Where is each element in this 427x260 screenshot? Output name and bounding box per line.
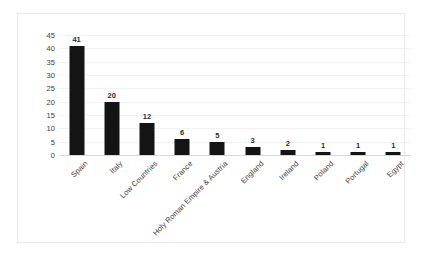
bar-value-label: 3 (251, 136, 255, 145)
bar-group: 12 (129, 35, 164, 155)
bar-group: 1 (305, 35, 340, 155)
bar[interactable] (245, 147, 260, 155)
x-axis-tick-label: Spain (69, 159, 89, 179)
y-axis-tick-label: 30 (46, 71, 55, 80)
bar-group: 41 (59, 35, 94, 155)
bar-value-label: 1 (356, 141, 360, 150)
bar-value-label: 2 (286, 139, 290, 148)
x-axis-tick-label: Ireland (277, 159, 300, 182)
x-axis-tick-label: Italy (108, 159, 124, 175)
y-axis-tick-label: 25 (46, 84, 55, 93)
bar-value-label: 1 (391, 141, 395, 150)
x-axis-tick-labels: SpainItalyLow CountriesFranceHoly Roman … (59, 159, 411, 255)
bar-value-label: 5 (215, 131, 219, 140)
y-axis-tick-labels: 051015202530354045 (35, 35, 59, 155)
bar-group: 2 (270, 35, 305, 155)
bar-value-label: 41 (72, 35, 80, 44)
bar-value-label: 12 (143, 112, 151, 121)
bar-group: 6 (165, 35, 200, 155)
bar-group: 3 (235, 35, 270, 155)
bar[interactable] (175, 139, 190, 155)
y-axis-tick-label: 5 (51, 137, 55, 146)
y-axis-tick-label: 0 (51, 151, 55, 160)
x-axis-tick-label: Egypt (385, 159, 405, 179)
bar-value-label: 1 (321, 141, 325, 150)
x-axis-tick-label: Holy Roman Empire & Austria (151, 159, 229, 237)
x-axis-tick-label: England (239, 159, 265, 185)
bar-series: 4120126532111 (59, 35, 411, 155)
chart-plot-frame: 051015202530354045 4120126532111 SpainIt… (17, 13, 405, 243)
x-axis-tick-label: Poland (312, 159, 335, 182)
bar-value-label: 20 (108, 91, 116, 100)
x-axis-tick-label: France (171, 159, 194, 182)
bar[interactable] (69, 46, 84, 155)
bar[interactable] (104, 102, 119, 155)
bar-group: 1 (341, 35, 376, 155)
y-axis-tick-label: 45 (46, 31, 55, 40)
bar[interactable] (351, 152, 366, 155)
bar[interactable] (210, 142, 225, 155)
y-axis-tick-label: 15 (46, 111, 55, 120)
x-axis-line (59, 155, 411, 156)
bar[interactable] (386, 152, 401, 155)
x-axis-tick-label: Portugal (344, 159, 371, 186)
bar-group: 20 (94, 35, 129, 155)
bar-value-label: 6 (180, 128, 184, 137)
y-axis-tick-label: 10 (46, 124, 55, 133)
y-axis-tick-label: 40 (46, 44, 55, 53)
chart-figure: 051015202530354045 4120126532111 SpainIt… (0, 0, 427, 260)
bar[interactable] (139, 123, 154, 155)
bar[interactable] (315, 152, 330, 155)
y-axis-tick-label: 20 (46, 97, 55, 106)
bar-group: 5 (200, 35, 235, 155)
bar[interactable] (280, 150, 295, 155)
y-axis-tick-label: 35 (46, 57, 55, 66)
bar-group: 1 (376, 35, 411, 155)
